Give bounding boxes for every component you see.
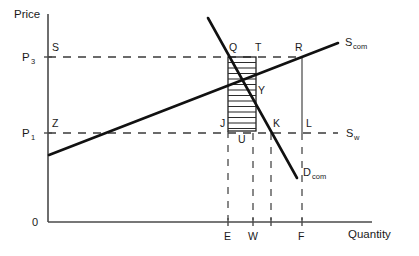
price-tick-p1-sub: 1: [31, 133, 35, 142]
curve-label-s-w-sub: w: [353, 133, 360, 142]
price-lines-group: [48, 57, 338, 133]
point-label-t: T: [255, 41, 262, 53]
quantity-tick-label-w: W: [248, 230, 258, 242]
curve-label-s-com-base: S: [345, 36, 352, 48]
point-label-r: R: [295, 41, 303, 53]
point-label-k: K: [273, 117, 280, 129]
economics-diagram: Price Quantity 0 P 3 P 1 E W F S com D c…: [0, 0, 419, 256]
x-axis-label: Quantity: [348, 228, 391, 240]
price-tick-label-p1: P 1: [22, 127, 35, 142]
tariff-revenue-box: [228, 57, 256, 131]
price-tick-p3-base: P: [22, 51, 30, 63]
supply-curve-s-com: [49, 43, 338, 155]
axes-group: [48, 14, 372, 222]
point-label-j: J: [220, 117, 225, 129]
price-tick-p1-base: P: [22, 127, 30, 139]
curve-label-d-com-sub: com: [312, 172, 326, 181]
y-axis-label: Price: [14, 8, 40, 20]
point-label-z: Z: [52, 117, 59, 129]
curve-label-d-com-base: D: [303, 166, 311, 178]
curve-label-s-com-sub: com: [353, 42, 367, 51]
point-label-l: L: [306, 117, 312, 129]
curve-label-d-com: D com: [303, 166, 326, 181]
quantity-tick-label-e: E: [224, 230, 231, 242]
point-label-u: U: [238, 133, 246, 145]
origin-label: 0: [32, 216, 38, 228]
curve-label-s-com: S com: [345, 36, 367, 51]
supply-demand-chart: Price Quantity 0 P 3 P 1 E W F S com D c…: [0, 0, 419, 256]
quantity-tick-label-f: F: [298, 230, 304, 242]
point-label-y: Y: [258, 84, 265, 96]
price-tick-label-p3: P 3: [22, 51, 35, 66]
price-tick-p3-sub: 3: [31, 57, 35, 66]
curve-label-s-w-base: S: [346, 127, 353, 139]
point-label-q: Q: [229, 41, 237, 53]
curve-label-s-w: S w: [346, 127, 360, 142]
point-label-s: S: [52, 41, 59, 53]
